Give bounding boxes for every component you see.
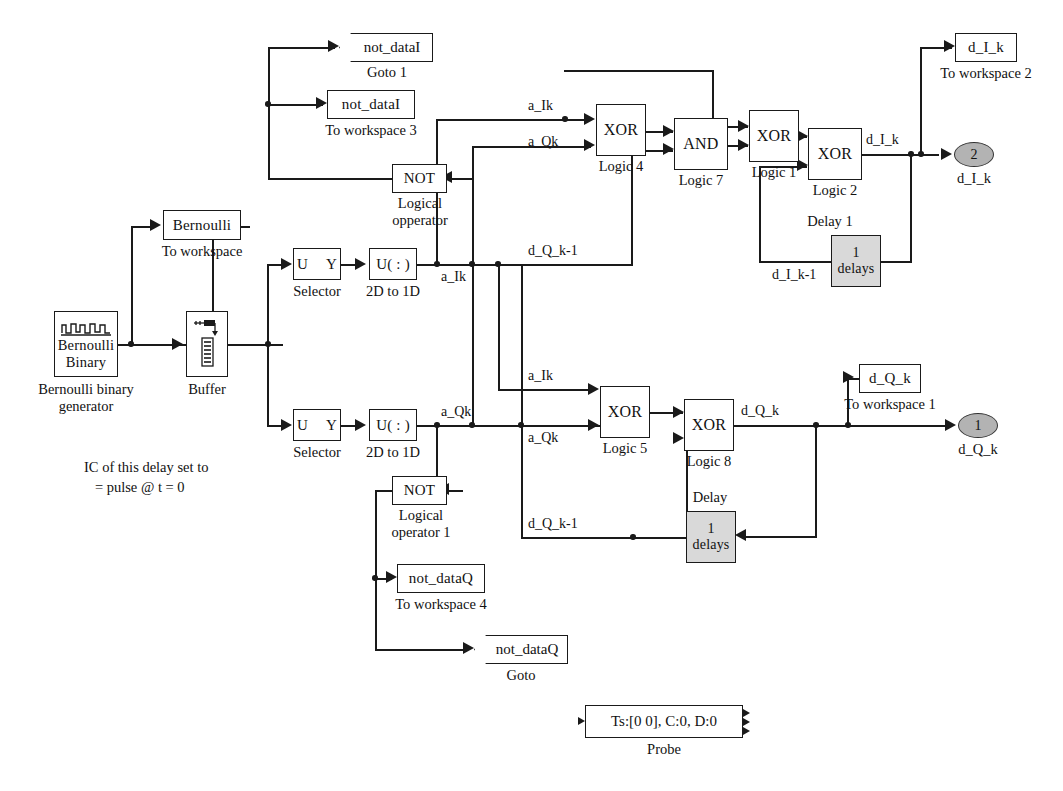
selector-i-block[interactable]: U Y bbox=[293, 248, 341, 280]
outport-2[interactable]: 2 bbox=[954, 142, 994, 167]
wire-top-horizontal bbox=[564, 70, 714, 72]
to-workspace-3-block[interactable]: not_dataI bbox=[327, 90, 415, 119]
logical-not-q-block[interactable]: NOT bbox=[392, 476, 447, 505]
arrow-ws3-in bbox=[316, 97, 327, 109]
signal-label-a-ik-main: a_Ik bbox=[441, 269, 466, 284]
wire-buffer-up bbox=[267, 264, 269, 345]
to-workspace-2-caption: To workspace 2 bbox=[917, 65, 1055, 82]
to-workspace-bernoulli-caption: To workspace bbox=[142, 243, 262, 260]
probe-label: Ts:[0 0], C:0, D:0 bbox=[611, 713, 717, 730]
signal-label-d-q-k: d_Q_k bbox=[741, 403, 779, 418]
junction-a-qk-up bbox=[469, 422, 475, 428]
goto-1-block[interactable]: not_dataI bbox=[339, 33, 433, 62]
reshape-i-caption: 2D to 1D bbox=[356, 283, 430, 300]
wire-to-ws3 bbox=[268, 104, 323, 106]
logical-not-q-label: NOT bbox=[404, 482, 435, 499]
goto-q-caption: Goto bbox=[474, 667, 568, 684]
logic-4-label: XOR bbox=[604, 121, 638, 139]
wire-logic2-out bbox=[861, 154, 939, 156]
wire-a-qk-up bbox=[472, 146, 474, 426]
wire-to-goto-q bbox=[375, 649, 468, 651]
signal-label-dqk1-bot: d_Q_k-1 bbox=[528, 516, 578, 531]
wire-not-i-out bbox=[268, 178, 392, 180]
logic-5-caption: Logic 5 bbox=[587, 440, 663, 457]
goto-1-label: not_dataI bbox=[364, 39, 421, 56]
wire-to-goto1 bbox=[268, 47, 335, 49]
outport-1[interactable]: 1 bbox=[958, 413, 998, 438]
signal-label-a-qk-top: a_Qk bbox=[528, 134, 558, 149]
selector-q-block[interactable]: U Y bbox=[293, 409, 341, 441]
wire-source-up-left bbox=[131, 226, 133, 345]
logic-5-label: XOR bbox=[608, 403, 642, 421]
logical-not-i-block[interactable]: NOT bbox=[392, 164, 447, 193]
delay-1-block[interactable]: 1 delays bbox=[831, 235, 881, 287]
arrow-buffer-in bbox=[172, 338, 183, 350]
ic-delay-annotation: IC of this delay set to = pulse @ t = 0 bbox=[84, 458, 324, 497]
arrow-to-workspace-bernoulli bbox=[150, 219, 161, 231]
arrow-logic1-in2 bbox=[738, 139, 749, 151]
reshape-i-label: U( : ) bbox=[376, 256, 410, 273]
to-workspace-2-label: d_I_k bbox=[968, 39, 1004, 56]
logic-1-label: XOR bbox=[757, 127, 791, 145]
wire-buffer-down bbox=[267, 344, 269, 427]
buffer-block[interactable] bbox=[186, 311, 228, 377]
arrow-logic7-in1 bbox=[663, 125, 674, 137]
to-workspace-1-caption: To workspace 1 bbox=[821, 396, 959, 413]
signal-label-a-ik-top: a_Ik bbox=[528, 98, 553, 113]
probe-caption: Probe bbox=[624, 741, 704, 758]
wire-logic8-out bbox=[731, 425, 946, 427]
probe-block[interactable]: Ts:[0 0], C:0, D:0 bbox=[585, 705, 743, 738]
wire-dqk1-mid bbox=[521, 264, 633, 266]
reshape-q-label: U( : ) bbox=[376, 417, 410, 434]
outport-2-caption: d_I_k bbox=[936, 170, 1012, 187]
wire-dqk-down bbox=[815, 425, 817, 536]
wire-a-ik-to-logic4 bbox=[436, 119, 591, 121]
reshape-i-block[interactable]: U( : ) bbox=[369, 248, 417, 280]
wire-dik-down bbox=[910, 154, 912, 261]
goto-1-caption: Goto 1 bbox=[340, 64, 434, 81]
arrow-ws2-in bbox=[944, 40, 955, 52]
to-workspace-1-block[interactable]: d_Q_k bbox=[859, 364, 921, 393]
to-workspace-4-caption: To workspace 4 bbox=[373, 596, 509, 613]
wire-a-ik-to-logic5 bbox=[498, 389, 593, 391]
arrow-logic1-in1 bbox=[738, 120, 749, 132]
signal-label-dqk1-top: d_Q_k-1 bbox=[528, 243, 578, 258]
logic-4-block[interactable]: XOR bbox=[596, 104, 646, 156]
logic-7-block[interactable]: AND bbox=[674, 118, 728, 170]
arrow-delay-in bbox=[735, 529, 746, 541]
logic-7-caption: Logic 7 bbox=[663, 172, 739, 189]
to-workspace-bernoulli-block[interactable]: Bernoulli bbox=[163, 210, 241, 240]
probe-input-pin bbox=[578, 717, 585, 725]
outport-2-label: 2 bbox=[971, 147, 978, 163]
logic-1-block[interactable]: XOR bbox=[749, 110, 799, 162]
reshape-q-block[interactable]: U( : ) bbox=[369, 409, 417, 441]
arrow-reshape-i-in bbox=[355, 258, 366, 270]
arrow-outport-2 bbox=[941, 148, 952, 160]
wire-not-q-out bbox=[375, 490, 393, 492]
probe-output-pin-3 bbox=[743, 727, 750, 735]
logic-2-block[interactable]: XOR bbox=[808, 128, 862, 180]
to-workspace-4-block[interactable]: not_dataQ bbox=[397, 564, 485, 593]
logic-7-label: AND bbox=[683, 135, 718, 153]
delay-1-label: 1 delays bbox=[838, 245, 875, 276]
bernoulli-binary-generator-block[interactable]: Bernoulli Binary bbox=[54, 311, 118, 377]
logic-5-block[interactable]: XOR bbox=[600, 386, 650, 438]
delay-block[interactable]: 1 delays bbox=[686, 511, 736, 563]
to-workspace-1-label: d_Q_k bbox=[869, 370, 911, 387]
signal-label-d-i-k: d_I_k bbox=[866, 132, 899, 147]
arrow-logic5-in2 bbox=[588, 419, 599, 431]
arrow-ws1-in bbox=[843, 371, 854, 383]
logic-8-block[interactable]: XOR bbox=[684, 399, 734, 451]
buffer-caption: Buffer bbox=[162, 381, 252, 398]
goto-q-label: not_dataQ bbox=[496, 641, 558, 658]
wire-dqk1-up bbox=[521, 264, 523, 537]
goto-q-block[interactable]: not_dataQ bbox=[474, 635, 568, 664]
logic-8-label: XOR bbox=[692, 416, 726, 434]
outport-1-caption: d_Q_k bbox=[940, 441, 1016, 458]
to-workspace-2-block[interactable]: d_I_k bbox=[955, 33, 1017, 62]
reshape-q-caption: 2D to 1D bbox=[356, 444, 430, 461]
probe-output-pin-1 bbox=[743, 709, 750, 717]
signal-label-a-qk-bot: a_Qk bbox=[528, 430, 558, 445]
logic-8-caption: Logic 8 bbox=[671, 453, 747, 470]
arrow-ws4-in bbox=[386, 571, 397, 583]
